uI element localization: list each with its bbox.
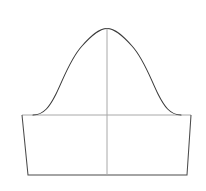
- figure-root: [0, 0, 206, 191]
- diagram-canvas: [0, 0, 206, 191]
